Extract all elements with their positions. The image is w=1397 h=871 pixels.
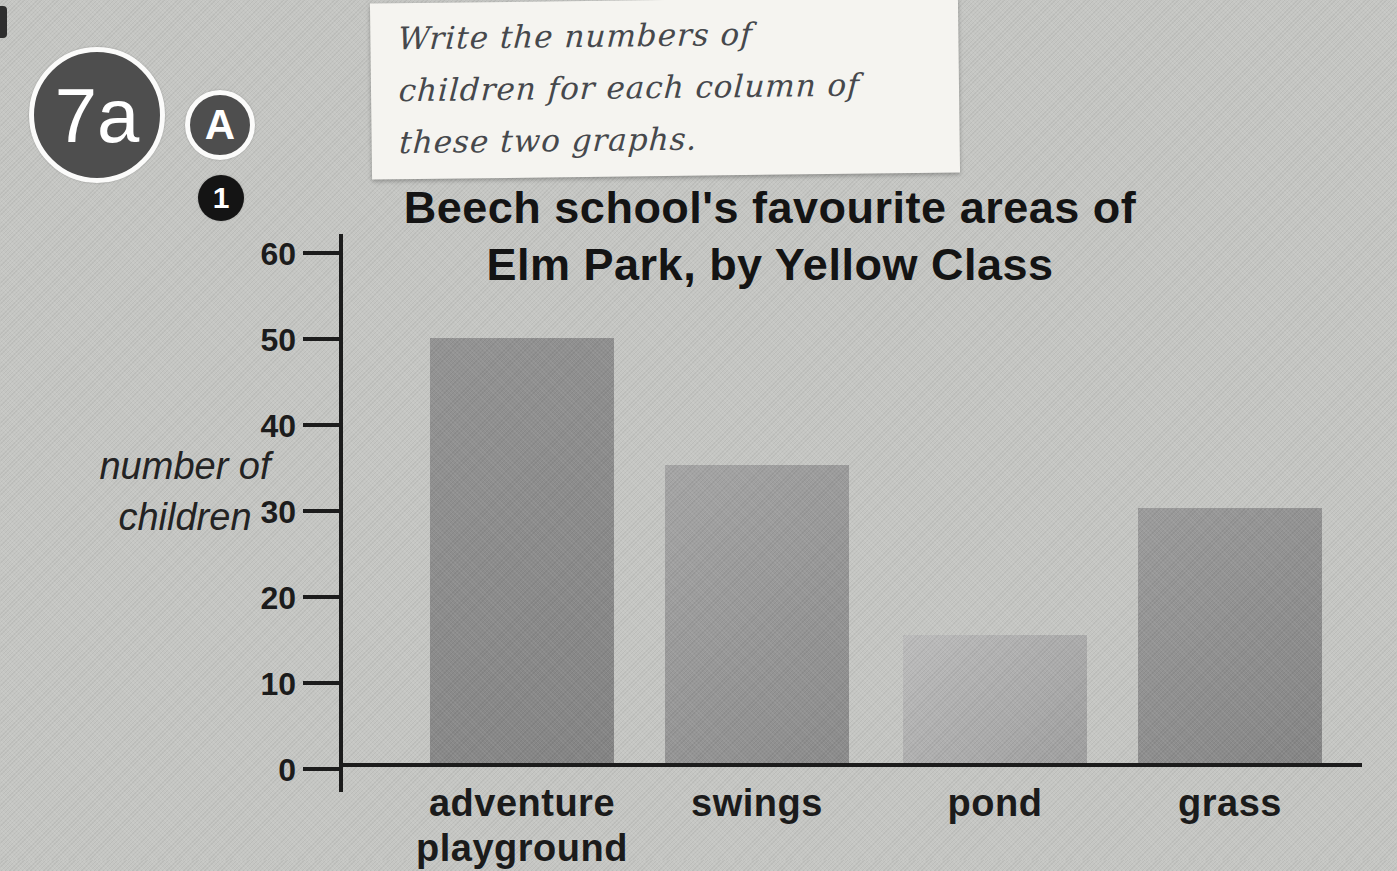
y-axis-label-line-1: number of: [92, 441, 278, 492]
y-tick-label-40: 40: [192, 408, 296, 444]
section-letter-badge: A: [185, 90, 255, 160]
y-tick-label-50: 50: [192, 322, 296, 358]
y-tick-label-0: 0: [192, 752, 296, 788]
bar-grass: [1138, 508, 1322, 763]
bar-adventure-playground: [430, 338, 614, 763]
y-tick-mark-40: [303, 423, 341, 427]
chart-title-line-2: Elm Park, by Yellow Class: [340, 236, 1200, 293]
chart-title-line-1: Beech school's favourite areas of: [340, 179, 1200, 236]
bar-pond: [903, 635, 1087, 763]
x-category-label-pond: pond: [948, 781, 1043, 826]
y-tick-label-10: 10: [192, 666, 296, 702]
y-tick-mark-30: [303, 509, 341, 513]
y-tick-mark-10: [303, 681, 341, 685]
handwritten-instruction-note: Write the numbers of children for each c…: [370, 0, 960, 180]
note-line-2: children for each column of: [397, 57, 962, 116]
chart-title: Beech school's favourite areas of Elm Pa…: [340, 179, 1200, 293]
section-letter-text: A: [205, 101, 235, 149]
x-category-label-swings: swings: [691, 781, 823, 826]
x-axis-line: [339, 763, 1362, 767]
bar-swings: [665, 465, 849, 763]
scan-artifact: [0, 6, 7, 38]
y-tick-mark-60: [303, 251, 341, 255]
lesson-number-text: 7a: [55, 72, 140, 159]
y-tick-label-60: 60: [192, 236, 296, 272]
note-line-1: Write the numbers of: [397, 5, 962, 64]
question-number-text: 1: [213, 181, 230, 215]
y-tick-mark-50: [303, 337, 341, 341]
x-category-label-grass: grass: [1178, 781, 1282, 826]
y-tick-mark-0: [303, 767, 341, 771]
note-line-3: these two graphs.: [398, 109, 963, 168]
question-number-badge: 1: [198, 175, 244, 221]
y-tick-mark-20: [303, 595, 341, 599]
y-tick-label-20: 20: [192, 580, 296, 616]
y-tick-label-30: 30: [192, 494, 296, 530]
lesson-number-badge: 7a: [29, 47, 165, 183]
y-axis-line: [339, 234, 343, 792]
x-category-label-adventure-playground: adventure playground: [416, 781, 628, 871]
